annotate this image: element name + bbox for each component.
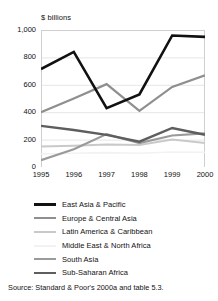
data-series-group — [41, 35, 205, 160]
legend-label: Europe & Central Asia — [62, 214, 137, 223]
legend-label: South Asia — [62, 255, 98, 264]
series-line — [41, 75, 205, 112]
x-axis-tick-label: 2000 — [188, 170, 218, 179]
chart-legend: East Asia & PacificEurope & Central Asia… — [0, 198, 218, 280]
legend-swatch-cell — [0, 258, 62, 260]
legend-swatch-cell — [0, 272, 62, 274]
legend-item: South Asia — [0, 252, 218, 266]
legend-item: Latin America & Caribbean — [0, 225, 218, 239]
legend-line-swatch — [34, 258, 56, 260]
x-axis-tick-label: 1997 — [90, 170, 124, 179]
legend-line-swatch — [34, 231, 56, 233]
legend-line-swatch — [34, 272, 56, 274]
y-axis-title: $ billions — [41, 13, 71, 22]
x-axis-tick-label: 1999 — [155, 170, 189, 179]
plot-area — [41, 30, 205, 167]
y-axis-tick-label: 1,000 — [2, 25, 36, 34]
legend-item: Europe & Central Asia — [0, 212, 218, 226]
legend-swatch-cell — [0, 245, 62, 247]
legend-label: East Asia & Pacific — [62, 200, 125, 209]
legend-swatch-cell — [0, 217, 62, 219]
x-axis-tick-label: 1995 — [24, 170, 58, 179]
legend-label: Middle East & North Africa — [62, 241, 151, 250]
y-axis-tick-label: 600 — [2, 80, 36, 89]
x-axis-tick-label: 1998 — [122, 170, 156, 179]
legend-swatch-cell — [0, 203, 62, 206]
legend-item: Middle East & North Africa — [0, 239, 218, 253]
source-note: Source: Standard & Poor's 2000a and tabl… — [8, 283, 164, 292]
legend-item: East Asia & Pacific — [0, 198, 218, 212]
y-axis-tick-label: 200 — [2, 135, 36, 144]
legend-line-swatch — [34, 245, 56, 247]
chart-figure: $ billions 02004006008001,000 1995199619… — [0, 0, 218, 301]
legend-label: Latin America & Caribbean — [62, 227, 152, 236]
series-line — [41, 126, 205, 142]
legend-line-swatch — [34, 217, 56, 219]
legend-item: Sub-Saharan Africa — [0, 266, 218, 280]
y-axis-tick-label: 800 — [2, 52, 36, 61]
legend-label: Sub-Saharan Africa — [62, 268, 128, 277]
line-chart-svg — [41, 30, 205, 167]
legend-line-swatch — [34, 203, 56, 206]
x-axis-tick-label: 1996 — [57, 170, 91, 179]
y-axis-tick-label: 400 — [2, 107, 36, 116]
series-line — [41, 140, 205, 147]
legend-swatch-cell — [0, 231, 62, 233]
